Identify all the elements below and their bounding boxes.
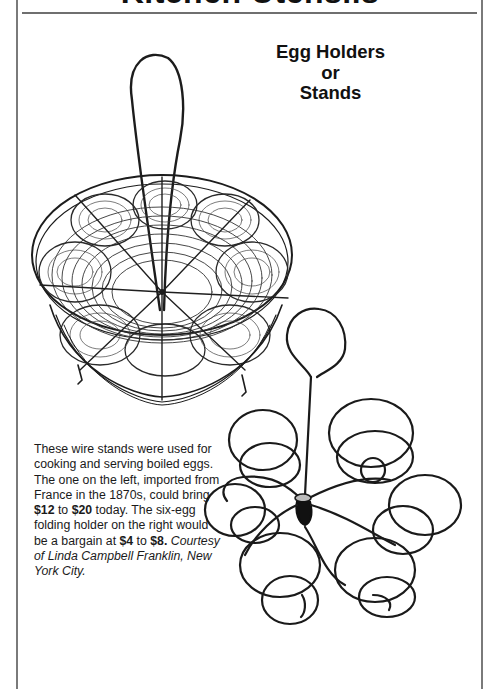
section-header: Kitchen Utensils [22, 0, 478, 11]
price-right-low: $4 [119, 534, 133, 548]
price-right-high: $8. [150, 534, 167, 548]
page-frame-right-border [481, 0, 483, 689]
page-frame-left-border [16, 0, 18, 689]
section-header-title: Kitchen Utensils [22, 0, 478, 11]
caption-to-1: to [55, 503, 72, 517]
folding-egg-holder-illustration [225, 305, 475, 655]
caption-text: These wire stands were used for cooking … [34, 442, 224, 580]
price-left-high: $20 [72, 503, 93, 517]
caption-part-1: These wire stands were used for cooking … [34, 442, 219, 502]
price-left-low: $12 [34, 503, 55, 517]
caption-to-2: to [133, 534, 150, 548]
header-divider [22, 12, 477, 14]
